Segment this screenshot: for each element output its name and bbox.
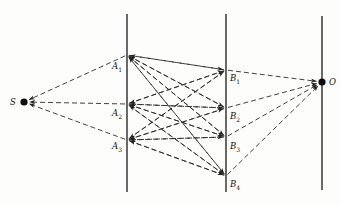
edge-B2-to-O bbox=[228, 83, 317, 107]
node-label-S: S bbox=[10, 97, 16, 107]
node-dot-S bbox=[20, 98, 27, 105]
edge-A2-to-S bbox=[29, 102, 125, 104]
node-label-B1: B1 bbox=[230, 73, 240, 85]
edge-B3-to-A2 bbox=[130, 105, 224, 136]
node-label-B3: B3 bbox=[230, 141, 240, 153]
node-label-A2: A2 bbox=[112, 108, 122, 120]
edge-A3-to-S bbox=[29, 104, 125, 139]
node-label-O: O bbox=[329, 77, 336, 87]
axis-lines-group bbox=[127, 14, 322, 192]
node-label-A1: A1 bbox=[112, 61, 122, 73]
node-label-B4: B4 bbox=[230, 179, 240, 191]
node-dot-O bbox=[318, 78, 325, 85]
edge-A1-to-S bbox=[29, 56, 125, 100]
node-label-B2: B2 bbox=[230, 111, 240, 123]
edges-group bbox=[29, 55, 318, 175]
edge-B3-to-O bbox=[228, 85, 317, 136]
edge-B1-to-O bbox=[228, 70, 317, 81]
edge-B4-to-O bbox=[227, 86, 318, 175]
network-graph bbox=[0, 0, 341, 205]
diagram-canvas: SA1A2A3B1B2B3B4O bbox=[0, 0, 341, 205]
node-label-A3: A3 bbox=[112, 141, 122, 153]
